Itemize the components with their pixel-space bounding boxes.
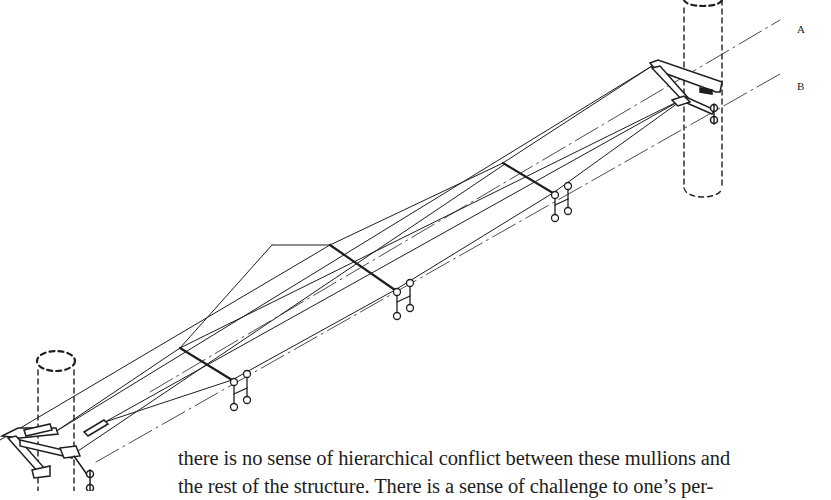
top-end-bracket-icon: [650, 60, 722, 124]
body-text-line-2: the rest of the structure. There is a se…: [178, 472, 831, 500]
body-text-line-1: there is no sense of hierarchical confli…: [178, 444, 831, 472]
bottom-end-bracket-icon: [2, 420, 108, 491]
glazing-bracket-upper-icon: [552, 183, 572, 222]
axis-label-b: B: [797, 80, 804, 92]
axis-label-a: A: [797, 23, 805, 35]
glazing-bracket-middle-icon: [394, 280, 414, 320]
glazing-bracket-lower-icon: [231, 371, 251, 411]
body-paragraph: there is no sense of hierarchical confli…: [178, 444, 831, 500]
center-line-b: [96, 74, 780, 462]
tension-rods: [0, 66, 685, 453]
spacer-bar-middle: [330, 245, 395, 290]
